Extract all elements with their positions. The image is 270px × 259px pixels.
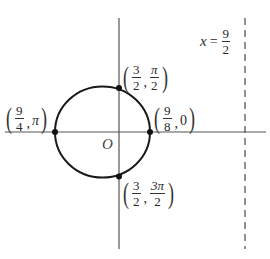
- asymptote-label: x = 9 2: [200, 27, 231, 56]
- point-top-label: ( 3 2 , π 2 ): [121, 62, 170, 92]
- point-right-label: ( 9 8 , 0 ): [152, 103, 197, 133]
- point-left: [52, 129, 58, 135]
- point-left-label: ( 9 4 , π ): [4, 103, 49, 133]
- origin-label: O: [102, 137, 113, 152]
- point-bottom-label: ( 3 2 , 3π 2 ): [121, 178, 176, 208]
